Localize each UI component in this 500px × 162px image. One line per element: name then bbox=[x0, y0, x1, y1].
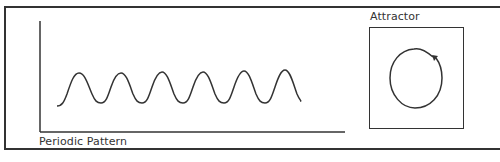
periodic-label: Periodic Pattern bbox=[39, 135, 127, 148]
periodic-wave bbox=[57, 70, 301, 106]
attractor-box bbox=[369, 27, 464, 129]
attractor-label: Attractor bbox=[370, 10, 420, 23]
